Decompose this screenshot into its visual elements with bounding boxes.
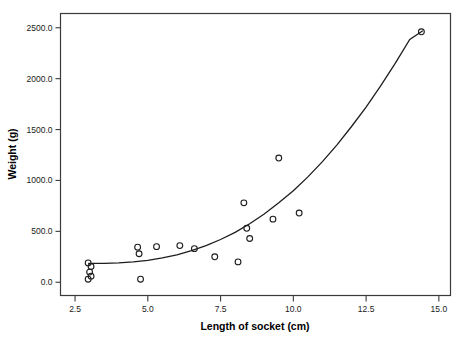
y-tick-label: 1500.0 [27, 125, 53, 135]
data-point [276, 155, 282, 161]
data-point [270, 216, 276, 222]
x-tick-label: 7.5 [215, 304, 227, 314]
data-point [135, 244, 141, 250]
data-point [154, 244, 160, 250]
chart-container: 0.0500.01000.01500.02000.02500.0 2.55.07… [0, 0, 461, 341]
scatter-plot: 0.0500.01000.01500.02000.02500.0 2.55.07… [0, 0, 461, 341]
y-axis-title: Weight (g) [6, 128, 18, 179]
data-point [212, 254, 218, 260]
y-tick-label: 2500.0 [27, 23, 53, 33]
y-axis-ticks: 0.0500.01000.01500.02000.02500.0 [27, 23, 61, 288]
y-tick-label: 2000.0 [27, 74, 53, 84]
data-point [244, 225, 250, 231]
x-axis-title: Length of socket (cm) [200, 320, 309, 332]
x-tick-label: 15.0 [431, 304, 448, 314]
y-tick-label: 1000.0 [27, 175, 53, 185]
data-point [247, 236, 253, 242]
x-tick-label: 2.5 [69, 304, 81, 314]
data-point [241, 200, 247, 206]
data-point [235, 259, 241, 265]
plot-frame [61, 14, 451, 296]
y-tick-label: 500.0 [31, 226, 53, 236]
y-tick-label: 0.0 [41, 277, 53, 287]
data-point [138, 276, 144, 282]
data-point [136, 251, 142, 257]
x-axis-ticks: 2.55.07.510.012.515.0 [69, 296, 447, 314]
x-tick-label: 5.0 [142, 304, 154, 314]
data-points [85, 29, 424, 282]
x-tick-label: 10.0 [285, 304, 302, 314]
data-point [296, 210, 302, 216]
data-point [177, 243, 183, 249]
x-tick-label: 12.5 [358, 304, 375, 314]
fitted-curve [88, 31, 423, 264]
